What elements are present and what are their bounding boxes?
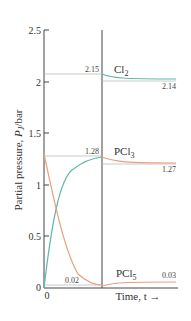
equilibrium-chart: 2.5 2 1.5 1 0.5 0 0 Partial pressure, PJ… — [0, 0, 191, 321]
cl2-curve-rise — [44, 157, 102, 288]
pcl5-curve-after — [102, 282, 176, 286]
tick-0: 0 — [36, 282, 41, 293]
tick-2-5: 2.5 — [29, 25, 42, 36]
label-pcl3-eq1: 1.28 — [85, 147, 99, 156]
tick-2: 2 — [36, 77, 41, 88]
x-axis-title: Time, t → — [115, 290, 160, 302]
tick-1-5: 1.5 — [29, 128, 42, 139]
label-pcl5-eq1: 0.02 — [65, 276, 79, 285]
species-pcl3: PCl3 — [114, 145, 135, 160]
label-pcl3-eq2: 1.27 — [162, 165, 176, 174]
pcl5-curve-fall — [44, 154, 102, 285]
y-ticks — [44, 30, 49, 236]
label-pcl5-eq2: 0.03 — [162, 271, 176, 280]
pcl3-curve-after — [102, 157, 176, 163]
tick-1: 1 — [36, 180, 41, 191]
species-cl2: Cl2 — [114, 63, 128, 78]
reference-lines — [44, 74, 176, 285]
label-cl2-eq2: 2.14 — [162, 82, 176, 91]
species-pcl5: PCl5 — [116, 267, 137, 282]
y-axis-title: Partial pressure, PJ/bar — [12, 109, 26, 210]
x-tick-0: 0 — [45, 290, 50, 301]
tick-0-5: 0.5 — [29, 231, 42, 242]
label-cl2-eq1: 2.15 — [85, 65, 99, 74]
